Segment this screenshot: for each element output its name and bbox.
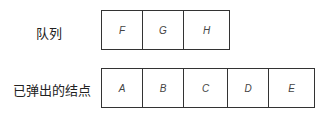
popped-nodes-row: A B C D E bbox=[101, 68, 315, 108]
queue-cell: G bbox=[143, 11, 184, 49]
queue-cell: H bbox=[184, 11, 229, 49]
popped-cell: E bbox=[269, 69, 314, 107]
queue-label: 队列 bbox=[36, 23, 62, 42]
popped-cell: B bbox=[143, 69, 184, 107]
popped-nodes-label: 已弹出的结点 bbox=[13, 80, 91, 99]
popped-cell: A bbox=[102, 69, 143, 107]
queue-cell: F bbox=[102, 11, 143, 49]
popped-cell: C bbox=[184, 69, 228, 107]
queue-row: F G H bbox=[101, 10, 230, 50]
popped-cell: D bbox=[228, 69, 269, 107]
